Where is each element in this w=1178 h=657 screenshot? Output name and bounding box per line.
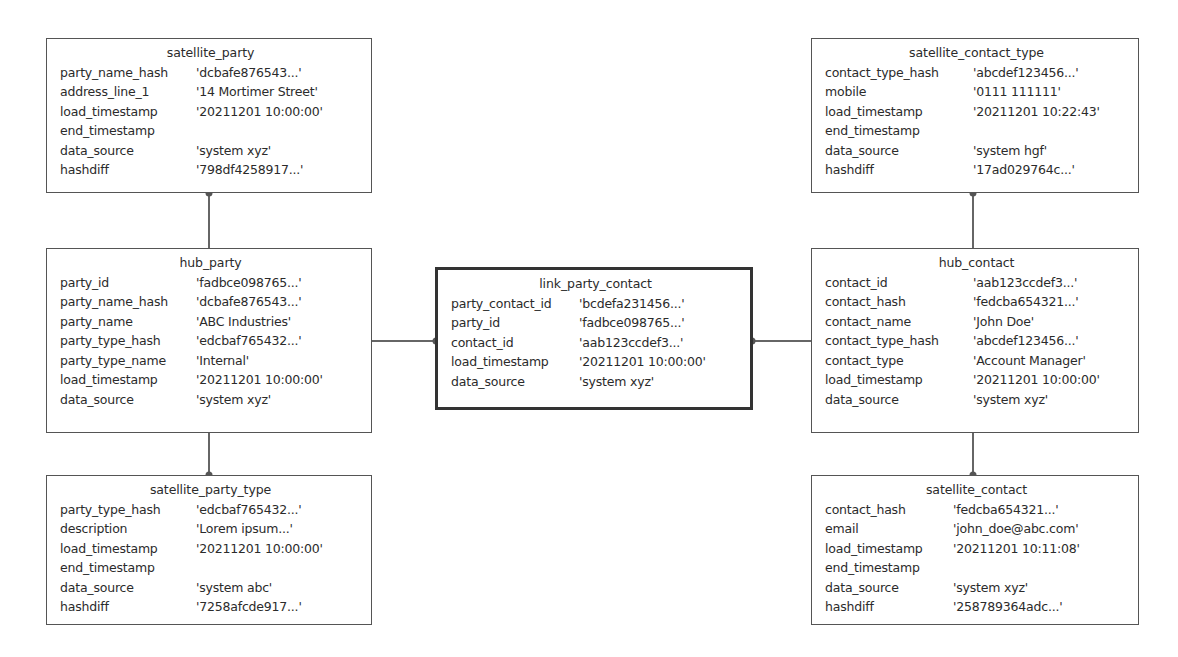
entity-row: data_source'system abc' [60, 578, 361, 598]
entity-row: end_timestamp [60, 121, 361, 141]
field-value: '258789364adc...' [953, 597, 1062, 617]
entity-row: contact_name'John Doe' [825, 312, 1128, 332]
field-name: load_timestamp [825, 370, 973, 390]
field-name: data_source [825, 141, 973, 161]
field-value: 'John Doe' [973, 312, 1034, 332]
field-value: 'system xyz' [196, 390, 271, 410]
entity-title: hub_party [60, 253, 361, 273]
field-value: 'abcdef123456...' [973, 331, 1079, 351]
field-name: data_source [451, 372, 579, 392]
field-name: party_name_hash [60, 63, 196, 83]
entity-title: satellite_party [60, 43, 361, 63]
field-name: party_contact_id [451, 294, 579, 314]
entity-row: party_type_hash'edcbaf765432...' [60, 331, 361, 351]
field-name: party_type_hash [60, 331, 196, 351]
entity-satellite-contact-type: satellite_contact_type contact_type_hash… [811, 38, 1139, 193]
field-value: 'john_doe@abc.com' [953, 519, 1078, 539]
field-name: data_source [825, 578, 953, 598]
field-name: end_timestamp [825, 558, 953, 578]
connector-hub-party-satellite-party-type [208, 433, 210, 475]
field-name: load_timestamp [825, 102, 973, 122]
entity-row: data_source'system hgf' [825, 141, 1128, 161]
field-name: contact_type_hash [825, 63, 973, 83]
field-name: data_source [60, 578, 196, 598]
entity-row: contact_id'aab123ccdef3...' [825, 273, 1128, 293]
field-name: contact_id [451, 333, 579, 353]
data-vault-diagram: satellite_party party_name_hash'dcbafe87… [0, 0, 1178, 657]
field-name: party_name [60, 312, 196, 332]
field-name: party_id [60, 273, 196, 293]
entity-row: contact_hash'fedcba654321...' [825, 500, 1128, 520]
field-name: load_timestamp [825, 539, 953, 559]
field-value: '20211201 10:22:43' [973, 102, 1100, 122]
field-name: contact_hash [825, 500, 953, 520]
field-name: data_source [825, 390, 973, 410]
entity-title: satellite_contact_type [825, 43, 1128, 63]
field-value: 'aab123ccdef3...' [579, 333, 683, 353]
field-value: '14 Mortimer Street' [196, 82, 318, 102]
field-name: party_type_name [60, 351, 196, 371]
field-name: description [60, 519, 196, 539]
field-value: '20211201 10:00:00' [196, 102, 323, 122]
field-value: '20211201 10:00:00' [196, 539, 323, 559]
field-value: 'fadbce098765...' [579, 313, 685, 333]
entity-row: contact_type'Account Manager' [825, 351, 1128, 371]
entity-row: data_source'system xyz' [451, 372, 740, 392]
entity-row: contact_type_hash'abcdef123456...' [825, 63, 1128, 83]
field-name: contact_hash [825, 292, 973, 312]
field-name: address_line_1 [60, 82, 196, 102]
field-name: mobile [825, 82, 973, 102]
entity-title: satellite_contact [825, 480, 1128, 500]
entity-title: hub_contact [825, 253, 1128, 273]
field-value: 'system xyz' [196, 141, 271, 161]
entity-row: party_type_hash'edcbaf765432...' [60, 500, 361, 520]
field-name: hashdiff [60, 597, 196, 617]
entity-row: email'john_doe@abc.com' [825, 519, 1128, 539]
entity-title: link_party_contact [451, 274, 740, 294]
field-value: '20211201 10:00:00' [579, 352, 706, 372]
field-value: '7258afcde917...' [196, 597, 302, 617]
field-name: load_timestamp [60, 102, 196, 122]
entity-row: contact_hash'fedcba654321...' [825, 292, 1128, 312]
field-value: '798df4258917...' [196, 160, 303, 180]
field-name: load_timestamp [60, 370, 196, 390]
entity-satellite-party-type: satellite_party_type party_type_hash'edc… [46, 475, 372, 625]
field-name: data_source [60, 141, 196, 161]
entity-row: contact_type_hash'abcdef123456...' [825, 331, 1128, 351]
field-value: 'Internal' [196, 351, 249, 371]
field-name: contact_type [825, 351, 973, 371]
field-value: 'system abc' [196, 578, 272, 598]
field-value: 'dcbafe876543...' [196, 63, 302, 83]
entity-row: load_timestamp'20211201 10:00:00' [60, 102, 361, 122]
field-value: '0111 111111' [973, 82, 1061, 102]
connector-satellite-contact-type-hub-contact [972, 193, 974, 248]
field-name: contact_name [825, 312, 973, 332]
entity-row: hashdiff'258789364adc...' [825, 597, 1128, 617]
entity-row: description'Lorem ipsum...' [60, 519, 361, 539]
entity-row: load_timestamp'20211201 10:11:08' [825, 539, 1128, 559]
entity-row: end_timestamp [825, 558, 1128, 578]
field-value: 'abcdef123456...' [973, 63, 1079, 83]
entity-row: load_timestamp'20211201 10:00:00' [60, 370, 361, 390]
entity-row: data_source'system xyz' [825, 390, 1128, 410]
field-name: party_id [451, 313, 579, 333]
field-name: end_timestamp [60, 121, 196, 141]
field-value: 'aab123ccdef3...' [973, 273, 1077, 293]
entity-row: data_source'system xyz' [825, 578, 1128, 598]
field-value: 'ABC Industries' [196, 312, 291, 332]
entity-row: load_timestamp'20211201 10:00:00' [60, 539, 361, 559]
entity-row: mobile'0111 111111' [825, 82, 1128, 102]
field-name: hashdiff [825, 597, 953, 617]
field-value: 'Account Manager' [973, 351, 1086, 371]
entity-row: end_timestamp [825, 121, 1128, 141]
field-value: '17ad029764c...' [973, 160, 1075, 180]
field-name: data_source [60, 390, 196, 410]
field-value: 'system hgf' [973, 141, 1047, 161]
entity-row: hashdiff'798df4258917...' [60, 160, 361, 180]
field-value: '20211201 10:11:08' [953, 539, 1080, 559]
entity-row: load_timestamp'20211201 10:00:00' [825, 370, 1128, 390]
field-name: contact_id [825, 273, 973, 293]
field-value: 'Lorem ipsum...' [196, 519, 293, 539]
entity-row: data_source'system xyz' [60, 141, 361, 161]
entity-row: party_name_hash'dcbafe876543...' [60, 292, 361, 312]
